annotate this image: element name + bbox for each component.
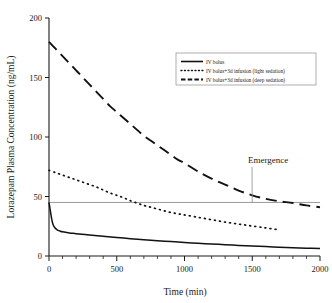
y-axis-tick-labels: 050100150200: [29, 13, 42, 261]
y-tick-label: 0: [38, 251, 42, 261]
y-tick-label: 50: [34, 192, 43, 202]
legend-label: IV bolus+3d infusion (deep sedation): [206, 77, 285, 84]
legend-label: IV bolus: [206, 59, 224, 65]
y-axis-ticks: [45, 18, 49, 256]
x-axis-tick-labels: 0500100015002000: [47, 264, 329, 274]
x-tick-label: 0: [47, 264, 51, 274]
y-tick-label: 150: [29, 73, 42, 83]
x-axis-title: Time (min): [163, 287, 206, 298]
emergence-annotation-label: Emergence: [248, 155, 288, 165]
legend-label: IV bolus+3d infusion (light sedation): [206, 68, 285, 75]
legend: IV bolusIV bolus+3d infusion (light seda…: [176, 53, 316, 85]
figure-container: 050100150200 0500100015002000 Emergence …: [0, 0, 332, 303]
y-tick-label: 200: [29, 13, 42, 23]
x-tick-label: 1000: [176, 264, 193, 274]
y-tick-label: 100: [29, 132, 42, 142]
y-axis-title: Lorazepam Plasma Concentration (ng/mL): [6, 56, 17, 219]
series-line-iv-bolus: [49, 202, 320, 248]
x-tick-label: 2000: [312, 264, 329, 274]
x-tick-label: 1500: [244, 264, 261, 274]
x-axis-ticks: [49, 256, 320, 261]
series-line-light-sedation: [49, 170, 277, 229]
pharmacokinetic-line-chart: 050100150200 0500100015002000 Emergence …: [0, 0, 332, 303]
x-tick-label: 500: [110, 264, 123, 274]
